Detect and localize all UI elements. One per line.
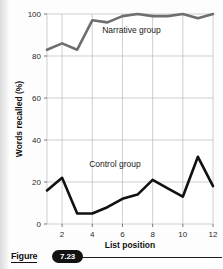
y-tick-label: 60 <box>32 94 41 103</box>
y-axis-title: Words recalled (%) <box>14 81 24 158</box>
x-tick-label: 10 <box>178 230 187 239</box>
figure-number-badge: 7.23 <box>52 250 83 263</box>
figure-page: 020406080100 24681012 Narrative groupCon… <box>0 0 223 269</box>
y-tick-label: 100 <box>28 10 42 19</box>
x-tick-label: 6 <box>120 230 125 239</box>
line-chart: 020406080100 24681012 Narrative groupCon… <box>0 0 223 269</box>
x-tick-label: 4 <box>90 230 95 239</box>
series-annotation-control-group: Control group <box>89 159 141 169</box>
series-annotation-narrative-group: Narrative group <box>102 25 161 35</box>
x-tick-label: 12 <box>209 230 218 239</box>
figure-caption: Figure 7.23 <box>9 249 223 269</box>
y-axis-tick-labels: 020406080100 <box>28 10 42 229</box>
y-tick-label: 40 <box>32 136 41 145</box>
y-tick-label: 20 <box>32 178 41 187</box>
caption-rule-line <box>81 257 222 258</box>
x-tick-label: 2 <box>60 230 65 239</box>
x-axis-ticks <box>62 224 213 227</box>
x-axis-tick-labels: 24681012 <box>60 230 218 239</box>
figure-caption-word: Figure <box>11 251 37 263</box>
y-tick-label: 80 <box>32 52 41 61</box>
x-tick-label: 8 <box>150 230 155 239</box>
y-tick-label: 0 <box>37 220 42 229</box>
plot-area-background <box>47 14 213 224</box>
y-axis-ticks <box>44 14 47 224</box>
